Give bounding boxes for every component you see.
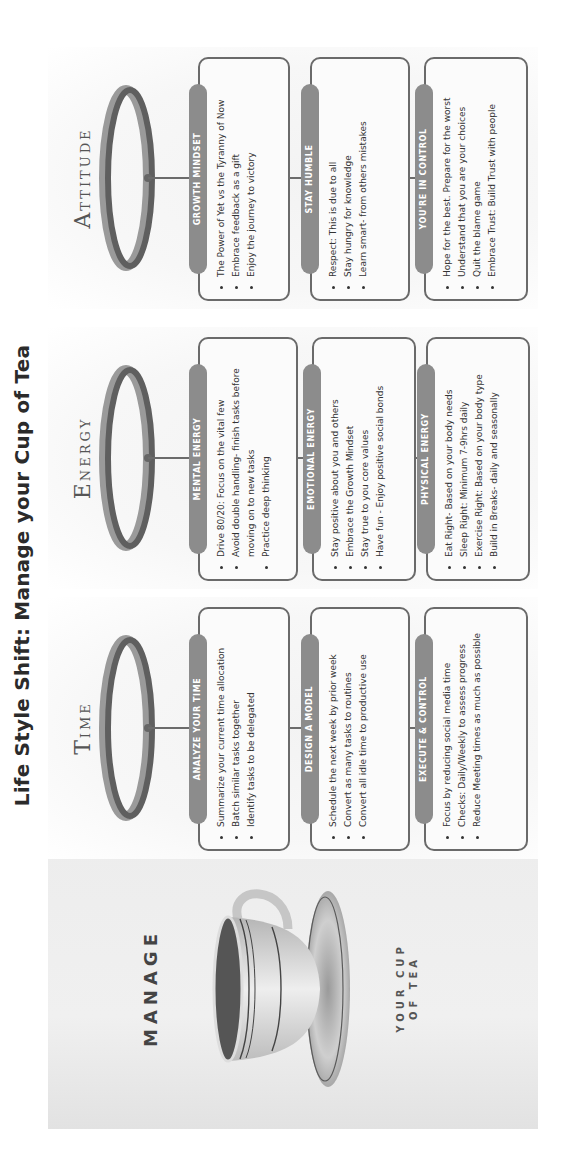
list-item: Eat Right- Based on your body needs [442, 347, 457, 557]
card-label: MENTAL ENERGY [189, 364, 207, 554]
list-item: Schedule the next week by prior week [326, 617, 341, 827]
column-time: TIME ANALYZE YOUR TIME Summarize your cu… [48, 597, 538, 859]
intro-subheading-line1: YOUR CUP [394, 847, 407, 1129]
list-item: Build in Breaks- daily and seasonally [487, 347, 502, 557]
card-growth-mindset: GROWTH MINDSET The Power of Yet vs the T… [198, 57, 290, 301]
card-label: DESIGN A MODEL [301, 634, 319, 824]
list-item: Reduce Meeting times as much as possible [470, 617, 485, 827]
intro-subheading-line2: OF TEA [407, 847, 420, 1129]
card-design-a-model: DESIGN A MODEL Schedule the next week by… [310, 607, 410, 851]
list-item: Quit the blame game [470, 67, 485, 277]
list-item: Practice deep thinking [259, 347, 274, 557]
list-item: Respect: This is due to all [326, 67, 341, 277]
list-item: Have fun - Enjoy positive social bonds [373, 347, 388, 557]
column-heading: ENERGY [70, 327, 95, 589]
column-attitude: ATTITUDE GROWTH MINDSET The Power of Yet… [48, 47, 538, 309]
intro-panel: MANAGE [48, 847, 538, 1129]
card-label: EXECUTE & CONTROL [415, 634, 433, 824]
card-mental-energy: MENTAL ENERGY Drive 80/20: Focus on the … [198, 337, 298, 581]
list-item: Embrace the Growth Mindset [343, 347, 358, 557]
infographic-canvas: Life Style Shift: Manage your Cup of Tea… [0, 0, 569, 1151]
list-item: Convert all idle time to productive use [356, 617, 371, 827]
list-item: Summarize your current time allocation [214, 617, 229, 827]
card-label: STAY HUMBLE [301, 84, 319, 274]
card-label: YOU'RE IN CONTROL [415, 84, 433, 274]
list-item: Exercise Right: Based on your body type [472, 347, 487, 557]
teacup-icon [168, 889, 368, 1089]
list-item: Focus by reducing social media time [440, 617, 455, 827]
list-item: Learn smart- from others mistakes [356, 67, 371, 277]
list-item: Sleep Right: Minimum 7-9hrs daily [457, 347, 472, 557]
list-item: Stay positive about you and others [328, 347, 343, 557]
card-label: GROWTH MINDSET [189, 84, 207, 274]
list-item: Drive 80/20: Focus on the vital few [214, 347, 229, 557]
card-analyze-your-time: ANALYZE YOUR TIME Summarize your current… [198, 607, 290, 851]
card-physical-energy: PHYSICAL ENERGY Eat Right- Based on your… [426, 337, 530, 581]
list-item: Batch similar tasks together [229, 617, 244, 827]
card-youre-in-control: YOU'RE IN CONTROL Hope for the best. Pre… [424, 57, 528, 301]
list-item: Stay true to you core values [358, 347, 373, 557]
list-item: Enjoy the journey to victory [244, 67, 259, 277]
card-label: PHYSICAL ENERGY [417, 364, 435, 554]
card-label: ANALYZE YOUR TIME [189, 634, 207, 824]
list-item: Embrace Trust: Build Trust with people [485, 67, 500, 277]
card-label: EMOTIONAL ENERGY [303, 364, 321, 554]
card-execute-control: EXECUTE & CONTROL Focus by reducing soci… [424, 607, 528, 851]
list-item: Understand that you are your choices [455, 67, 470, 277]
intro-subheading: YOUR CUP OF TEA [394, 847, 420, 1129]
list-item: Hope for the best. Prepare for the worst [440, 67, 455, 277]
list-item: The Power of Yet vs the Tyranny of Now [214, 67, 229, 277]
list-item: Checks: Daily/Weekly to assess progress [455, 617, 470, 827]
card-emotional-energy: EMOTIONAL ENERGY Stay positive about you… [312, 337, 416, 581]
list-item: Stay hungry for knowledge [341, 67, 356, 277]
column-heading: TIME [70, 597, 95, 859]
card-stay-humble: STAY HUMBLE Respect: This is due to all … [310, 57, 410, 301]
list-item: Convert as many tasks to routines [341, 617, 356, 827]
column-heading: ATTITUDE [70, 47, 95, 309]
list-item: Identify tasks to be delegated [244, 617, 259, 827]
page-title: Life Style Shift: Manage your Cup of Tea [10, 0, 34, 1151]
column-energy: ENERGY MENTAL ENERGY Drive 80/20: Focus … [48, 327, 538, 589]
list-item: Embrace feedback as a gift [229, 67, 244, 277]
list-item: Avoid double handling- finish tasks befo… [229, 347, 259, 557]
intro-heading: MANAGE [140, 847, 161, 1129]
